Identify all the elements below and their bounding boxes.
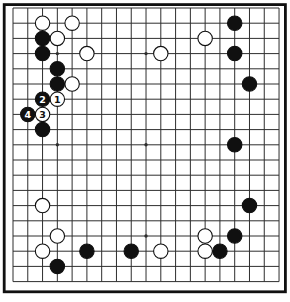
stone-black bbox=[228, 138, 242, 152]
go-diagram-page: 1234 bbox=[0, 0, 290, 302]
stone-black bbox=[35, 31, 49, 45]
stone-white bbox=[154, 244, 168, 258]
stone-white bbox=[35, 244, 49, 258]
star-point bbox=[56, 52, 59, 55]
star-point bbox=[144, 52, 147, 55]
move-3-stone-white bbox=[35, 107, 49, 121]
stone-white bbox=[154, 46, 168, 60]
stone-white bbox=[35, 16, 49, 30]
stone-black bbox=[228, 229, 242, 243]
stone-white bbox=[65, 16, 79, 30]
stone-white bbox=[198, 229, 212, 243]
stone-black bbox=[35, 46, 49, 60]
stone-black bbox=[213, 244, 227, 258]
stone-white bbox=[198, 31, 212, 45]
stone-black bbox=[242, 77, 256, 91]
stone-black bbox=[228, 46, 242, 60]
move-2-stone-black bbox=[35, 92, 49, 106]
stone-white bbox=[50, 31, 64, 45]
stone-white bbox=[198, 244, 212, 258]
stone-black bbox=[242, 198, 256, 212]
stone-white bbox=[65, 77, 79, 91]
star-point bbox=[56, 143, 59, 146]
star-point bbox=[144, 143, 147, 146]
move-4-stone-black bbox=[21, 107, 35, 121]
stone-black bbox=[50, 62, 64, 76]
go-board[interactable]: 1234 bbox=[0, 0, 290, 302]
stone-black bbox=[228, 16, 242, 30]
stone-black bbox=[124, 244, 138, 258]
stone-white bbox=[50, 229, 64, 243]
stone-black bbox=[50, 77, 64, 91]
stone-black bbox=[50, 259, 64, 273]
star-point bbox=[144, 234, 147, 237]
stone-black bbox=[80, 244, 94, 258]
stone-black bbox=[35, 122, 49, 136]
stone-white bbox=[35, 198, 49, 212]
stone-white bbox=[80, 46, 94, 60]
move-1-stone-white bbox=[50, 92, 64, 106]
